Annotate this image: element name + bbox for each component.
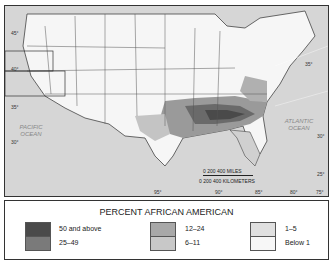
legend-label-12-24: 12–24 xyxy=(185,225,204,232)
latitude-label-30-east: 30° xyxy=(317,133,325,139)
legend-swatch-50-above xyxy=(25,222,51,237)
latitude-label-35-east: 35° xyxy=(305,61,313,67)
legend-title: PERCENT AFRICAN AMERICAN xyxy=(5,207,328,217)
legend-swatch-6-11 xyxy=(150,236,176,251)
legend-swatch-1-5 xyxy=(250,222,276,237)
longitude-label-80: 80° xyxy=(290,189,298,195)
us-map-graphic xyxy=(5,6,328,196)
scale-miles: 0 200 400 MILES xyxy=(203,168,242,174)
latitude-label-45: 45° xyxy=(11,30,19,36)
legend-label-below-1: Below 1 xyxy=(285,239,310,246)
longitude-label-95: 95° xyxy=(154,189,162,195)
longitude-label-75: 75° xyxy=(316,189,324,195)
legend-label-6-11: 6–11 xyxy=(185,239,200,246)
legend-label-25-49: 25–49 xyxy=(59,239,78,246)
atlantic-ocean-label: ATLANTIC OCEAN xyxy=(277,118,321,132)
latitude-label-25-east: 25° xyxy=(317,171,325,177)
legend: PERCENT AFRICAN AMERICAN 50 and above 25… xyxy=(4,200,329,260)
latitude-label-30: 30° xyxy=(11,139,19,145)
latitude-label-35: 35° xyxy=(11,104,19,110)
latitude-label-40: 40° xyxy=(11,66,19,72)
legend-swatch-25-49 xyxy=(25,236,51,251)
legend-swatch-below-1 xyxy=(250,236,276,251)
longitude-label-85: 85° xyxy=(255,189,263,195)
choropleth-map: 45° 40° 35° 30° 35° 30° 25° 95° 90° 85° … xyxy=(4,5,329,197)
legend-label-1-5: 1–5 xyxy=(285,225,297,232)
legend-swatch-12-24 xyxy=(150,222,176,237)
legend-label-50-above: 50 and above xyxy=(59,225,101,232)
scale-kilometers: 0 200 400 KILOMETERS xyxy=(199,178,255,184)
pacific-ocean-label: PACIFIC OCEAN xyxy=(11,124,51,138)
longitude-label-90: 90° xyxy=(215,189,223,195)
scale-line xyxy=(203,175,253,176)
